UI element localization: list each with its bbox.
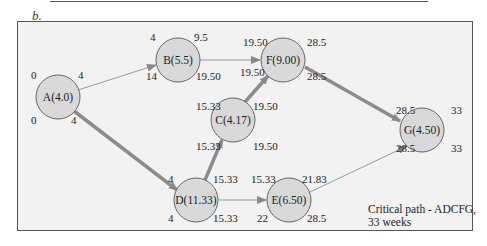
a-early-finish: 4 [78, 69, 84, 81]
c-late-start: 15.33 [196, 140, 221, 152]
node-a: A(4.0) [36, 75, 80, 119]
c-early-start: 15.33 [196, 100, 221, 112]
node-b: B(5.5) [156, 38, 200, 82]
b-late-finish: 19.50 [196, 70, 221, 82]
c-late-finish: 19.50 [253, 140, 278, 152]
g-early-finish: 33 [451, 104, 463, 116]
edge-e-g [310, 146, 407, 192]
edge-c-f-critical [245, 76, 268, 102]
b-early-start: 4 [150, 31, 156, 43]
node-d: D(11.33) [174, 178, 218, 222]
svg-text:E(6.50): E(6.50) [272, 194, 307, 207]
svg-text:D(11.33): D(11.33) [175, 194, 217, 207]
critical-path-note: Critical path - ADCFG, 33 weeks [368, 203, 476, 229]
edge-a-d-critical [74, 111, 177, 190]
e-late-start: 22 [257, 212, 268, 224]
duration-line: 33 weeks [368, 216, 476, 229]
svg-text:F(9.00): F(9.00) [266, 54, 300, 67]
svg-text:B(5.5): B(5.5) [163, 54, 193, 67]
d-early-start: 4 [168, 173, 174, 185]
e-early-finish: 21.83 [302, 173, 327, 185]
e-late-finish: 28.5 [307, 212, 327, 224]
g-late-finish: 33 [451, 142, 463, 154]
edge-a-b [78, 65, 156, 90]
d-early-finish: 15.33 [213, 173, 238, 185]
critical-path-line: Critical path - ADCFG, [368, 203, 476, 216]
f-late-start: 19.50 [240, 66, 265, 78]
a-early-start: 0 [31, 69, 37, 81]
d-late-finish: 15.33 [213, 212, 238, 224]
svg-text:A(4.0): A(4.0) [43, 91, 74, 104]
f-early-finish: 28.5 [307, 36, 327, 48]
a-late-finish: 4 [71, 114, 77, 126]
a-late-start: 0 [31, 114, 37, 126]
e-early-start: 15.33 [251, 173, 276, 185]
f-early-start: 19.50 [243, 36, 268, 48]
b-early-finish: 9.5 [194, 31, 208, 43]
svg-text:G(4.50): G(4.50) [404, 124, 440, 137]
c-early-finish: 19.50 [253, 100, 278, 112]
g-early-start: 28.5 [396, 104, 416, 116]
b-late-start: 14 [146, 70, 158, 82]
g-late-start: 28.5 [396, 142, 416, 154]
d-late-start: 4 [168, 212, 174, 224]
f-late-finish: 28.5 [307, 70, 327, 82]
svg-text:C(4.17): C(4.17) [215, 114, 251, 127]
